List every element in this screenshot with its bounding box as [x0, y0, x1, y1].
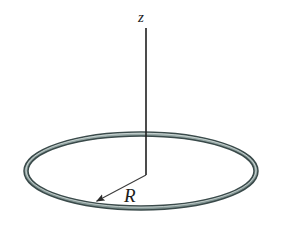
diagram-canvas: z R — [0, 0, 281, 235]
ring-torus — [0, 0, 281, 235]
ring-diagram-figure: z R — [0, 0, 281, 235]
ring-band-fill — [0, 0, 281, 235]
radius-label: R — [123, 185, 136, 206]
z-axis-label: z — [137, 9, 144, 25]
